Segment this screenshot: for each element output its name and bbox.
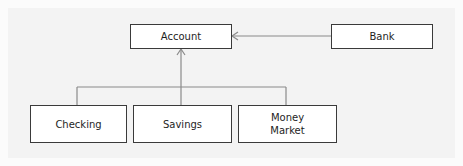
- node-label: Checking: [55, 118, 101, 131]
- diagram-canvas: Account Bank Checking Savings Money Mark…: [0, 0, 463, 166]
- node-savings[interactable]: Savings: [133, 105, 232, 143]
- node-label: Account: [161, 30, 201, 43]
- node-checking[interactable]: Checking: [30, 105, 127, 143]
- node-money-market[interactable]: Money Market: [238, 105, 337, 143]
- node-label: Money Market: [270, 111, 304, 137]
- node-label: Bank: [369, 30, 394, 43]
- node-label: Savings: [163, 118, 202, 131]
- node-account[interactable]: Account: [130, 24, 232, 49]
- node-bank[interactable]: Bank: [331, 24, 433, 49]
